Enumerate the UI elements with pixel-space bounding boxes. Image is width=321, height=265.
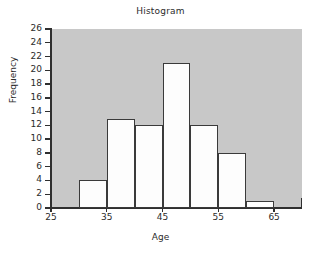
y-tick-6 <box>45 166 51 167</box>
y-tick-10 <box>45 138 51 139</box>
y-tick-label-6: 6 <box>12 162 42 171</box>
histogram-bar <box>79 180 107 208</box>
y-tick-label-20: 20 <box>12 65 42 74</box>
chart-title: Histogram <box>0 6 321 16</box>
x-tick-label-65: 65 <box>259 212 289 222</box>
x-tick-label-55: 55 <box>203 212 233 222</box>
y-tick-16 <box>45 97 51 98</box>
y-tick-label-22: 22 <box>12 52 42 61</box>
y-tick-label-2: 2 <box>12 189 42 198</box>
x-tick-label-25: 25 <box>36 212 66 222</box>
histogram-chart: Histogram Frequency 02468101214161820222… <box>0 0 321 265</box>
y-tick-14 <box>45 111 51 112</box>
y-tick-12 <box>45 125 51 126</box>
y-tick-label-4: 4 <box>12 175 42 184</box>
y-tick-label-26: 26 <box>12 24 42 33</box>
y-tick-8 <box>45 152 51 153</box>
histogram-bar <box>218 153 246 208</box>
y-tick-label-16: 16 <box>12 93 42 102</box>
y-tick-label-8: 8 <box>12 148 42 157</box>
y-tick-label-18: 18 <box>12 79 42 88</box>
y-tick-20 <box>45 70 51 71</box>
x-tick-label-35: 35 <box>92 212 122 222</box>
x-axis-label: Age <box>0 232 321 242</box>
histogram-bar <box>246 201 274 208</box>
histogram-bar <box>107 119 135 209</box>
y-tick-label-10: 10 <box>12 134 42 143</box>
y-tick-22 <box>45 56 51 57</box>
histogram-bar <box>163 63 191 208</box>
y-tick-18 <box>45 83 51 84</box>
y-tick-2 <box>45 194 51 195</box>
y-tick-26 <box>45 28 51 29</box>
y-tick-label-14: 14 <box>12 107 42 116</box>
y-tick-24 <box>45 42 51 43</box>
plot-right-edge <box>301 198 303 208</box>
y-tick-label-12: 12 <box>12 120 42 129</box>
y-tick-label-0: 0 <box>12 203 42 212</box>
y-tick-label-24: 24 <box>12 38 42 47</box>
histogram-bar <box>190 125 218 208</box>
histogram-bar <box>135 125 163 208</box>
y-tick-4 <box>45 180 51 181</box>
x-tick-label-45: 45 <box>148 212 178 222</box>
